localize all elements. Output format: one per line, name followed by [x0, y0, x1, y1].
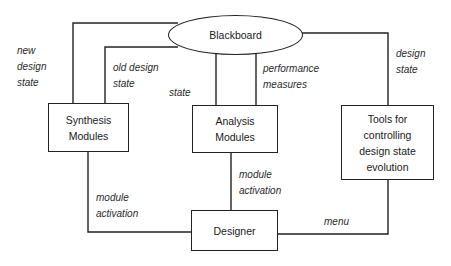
analysis-modules-node: Analysis Modules [192, 105, 278, 153]
tools-label-line-1: Tools for [368, 111, 408, 127]
label-module-activation-center: module activation [239, 167, 281, 199]
analysis-label-line-2: Modules [215, 129, 255, 145]
synthesis-modules-node: Synthesis Modules [48, 103, 129, 152]
label-old-design-state: old design state [113, 60, 159, 92]
label-design-state: design state [396, 46, 425, 78]
label-performance-measures: performance measures [263, 61, 319, 93]
tools-label-line-2: controlling [364, 127, 412, 143]
blackboard-node: Blackboard [168, 15, 303, 55]
tools-label-line-4: evolution [366, 159, 408, 175]
label-menu: menu [324, 214, 349, 230]
label-new-design-state: new design state [17, 43, 46, 91]
tools-node: Tools for controlling design state evolu… [341, 105, 434, 180]
designer-label: Designer [213, 223, 255, 239]
label-module-activation-left: module activation [96, 190, 138, 222]
analysis-label-line-1: Analysis [215, 113, 254, 129]
blackboard-label: Blackboard [209, 29, 262, 41]
synthesis-label-line-1: Synthesis [66, 112, 112, 128]
designer-node: Designer [191, 210, 278, 251]
label-state: state [169, 85, 191, 101]
tools-label-line-3: design state [359, 143, 416, 159]
synthesis-label-line-2: Modules [69, 128, 109, 144]
